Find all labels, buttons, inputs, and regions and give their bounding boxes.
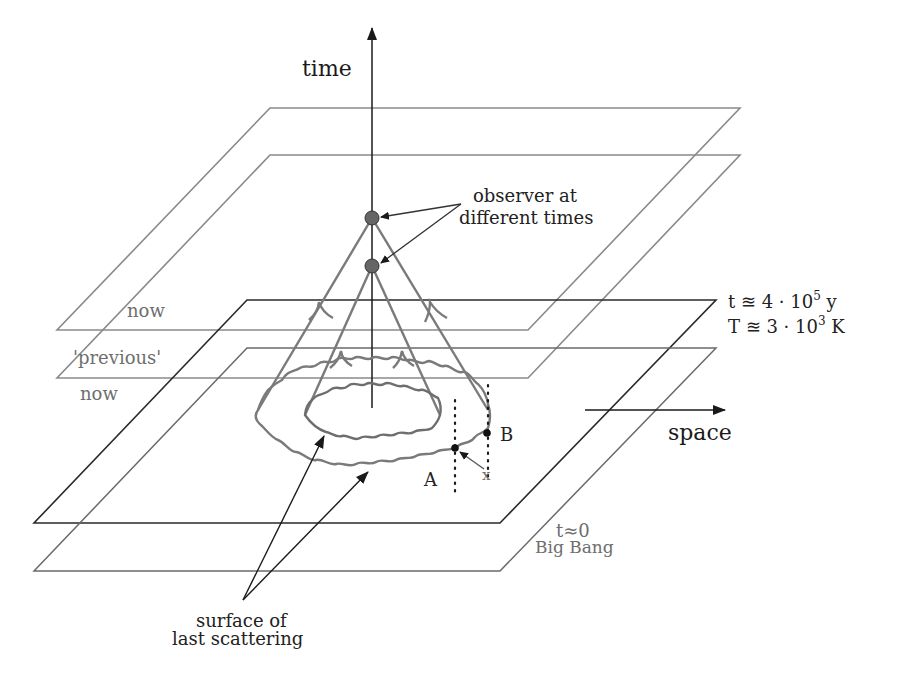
diagram-canvas: time space observer at different times n… [0, 0, 903, 678]
point-b-dot [483, 429, 491, 437]
plane-now-label: now [127, 300, 165, 321]
plane-now [57, 108, 740, 330]
observer-label-line1: observer at [473, 185, 578, 206]
plane-last-scattering [34, 300, 716, 523]
plane-previous-now [57, 155, 740, 378]
inner-scattering-ring [305, 383, 441, 439]
surface-label-line2: last scattering [172, 628, 303, 649]
surface-arrow-outer [243, 472, 368, 600]
point-a-label: A [423, 469, 438, 490]
x-arrow [460, 452, 484, 469]
observer-arrow-lower [381, 204, 461, 263]
observer-dot-lower [365, 259, 379, 273]
observer-dot-upper [365, 211, 379, 225]
point-b-label: B [500, 424, 513, 445]
space-axis-label: space [668, 420, 732, 445]
observer-arrow-upper [381, 204, 461, 217]
outer-light-cone [258, 218, 488, 410]
point-a-dot [451, 444, 459, 452]
plane-previous-now-label: now [80, 383, 118, 404]
observer-label-line2: different times [459, 207, 593, 228]
plane-big-bang [34, 348, 716, 571]
big-bang-label: Big Bang [535, 537, 614, 557]
recombination-time-label: t ≊ 4 · 105 y [728, 289, 838, 312]
time-axis-label: time [302, 56, 352, 81]
surface-arrow-inner [243, 436, 324, 600]
point-x-label: x [482, 466, 491, 484]
plane-previous-label: 'previous' [73, 347, 161, 368]
recombination-temperature-label: T ≊ 3 · 103 K [728, 314, 845, 337]
